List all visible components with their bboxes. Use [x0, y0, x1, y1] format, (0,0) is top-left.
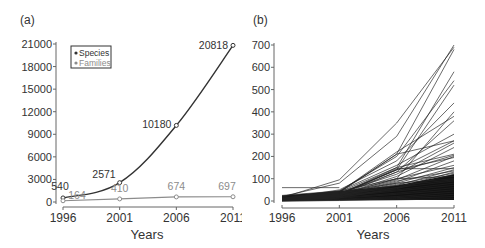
families-value-label: 697: [218, 180, 236, 192]
chart-b-canvas: (b)0100200300400500600700199620012006201…: [242, 0, 485, 248]
legend-marker-families: [74, 61, 77, 64]
y-tick-label-a: 15000: [21, 83, 52, 95]
y-tick-label-b: 400: [252, 106, 270, 118]
legend-label-species: Species: [79, 48, 109, 58]
species-value-label: 20818: [199, 39, 228, 51]
y-tick-label-a: 18000: [21, 61, 52, 73]
panel-b-family-growth-chart: (b)0100200300400500600700199620012006201…: [242, 0, 484, 248]
x-tick-label-b: 1996: [269, 211, 296, 225]
x-tick-label-b: 2006: [383, 211, 410, 225]
x-tick-label-a: 2006: [163, 211, 190, 225]
y-tick-label-a: 6000: [28, 151, 52, 163]
species-value-label: 2571: [92, 168, 116, 180]
series-line: [282, 49, 454, 198]
species-value-label: 540: [51, 180, 69, 192]
panel-label-b: (b): [253, 13, 268, 27]
legend-a: SpeciesFamilies: [71, 46, 111, 68]
data-point-species: [174, 123, 178, 127]
x-tick-label-a: 2011: [220, 211, 242, 225]
families-value-label: 674: [168, 180, 186, 192]
y-tick-label-b: 200: [252, 150, 270, 162]
y-tick-label-a: 3000: [28, 173, 52, 185]
families-value-label: 410: [111, 182, 129, 194]
y-tick-label-a: 21000: [21, 38, 52, 50]
y-tick-label-b: 600: [252, 61, 270, 73]
y-tick-label-a: 12000: [21, 106, 52, 118]
legend-label-families: Families: [79, 58, 111, 68]
x-axis-title-a: Years: [131, 227, 164, 242]
x-tick-label-b: 2011: [441, 211, 467, 225]
x-tick-label-a: 1996: [50, 211, 77, 225]
x-tick-label-b: 2001: [326, 211, 353, 225]
series-line-families: [63, 197, 233, 201]
y-tick-label-a: 9000: [28, 128, 52, 140]
x-axis-title-b: Years: [357, 227, 390, 242]
y-tick-label-b: 500: [252, 84, 270, 96]
legend-marker-species: [74, 51, 77, 54]
data-point-species: [231, 43, 235, 47]
y-tick-label-b: 0: [264, 195, 270, 207]
chart-a-canvas: (a)0300060009000120001500018000210001996…: [0, 0, 242, 248]
y-tick-label-b: 700: [252, 39, 270, 51]
families-value-label: 164: [68, 189, 86, 201]
panel-a-species-families-chart: (a)0300060009000120001500018000210001996…: [0, 0, 242, 248]
species-value-label: 10180: [142, 118, 171, 130]
series-lines-b: [282, 45, 454, 201]
data-point-families: [174, 195, 178, 199]
panel-label-a: (a): [20, 13, 35, 27]
y-tick-label-b: 300: [252, 128, 270, 140]
x-tick-label-a: 2001: [106, 211, 133, 225]
y-tick-label-b: 100: [252, 173, 270, 185]
data-point-families: [118, 197, 122, 201]
y-tick-label-a: 0: [46, 196, 52, 208]
data-point-families: [61, 199, 65, 203]
data-point-families: [231, 195, 235, 199]
